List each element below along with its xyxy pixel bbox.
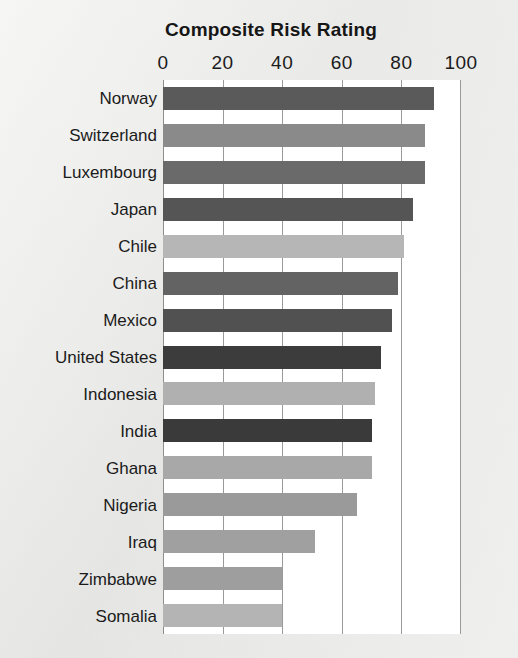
bar-row[interactable] bbox=[163, 604, 461, 627]
bar[interactable] bbox=[163, 419, 372, 442]
bar-row[interactable] bbox=[163, 493, 461, 516]
bar-row[interactable] bbox=[163, 235, 461, 258]
x-tick-label: 40 bbox=[271, 52, 293, 74]
bar[interactable] bbox=[163, 456, 372, 479]
category-label: Switzerland bbox=[69, 127, 157, 144]
bar[interactable] bbox=[163, 567, 282, 590]
composite-risk-rating-chart: Composite Risk Rating 020406080100 Norwa… bbox=[0, 0, 518, 658]
category-label: China bbox=[113, 275, 157, 292]
bar[interactable] bbox=[163, 235, 404, 258]
bar-row[interactable] bbox=[163, 382, 461, 405]
bar-row[interactable] bbox=[163, 456, 461, 479]
category-label: Norway bbox=[99, 90, 157, 107]
bar-row[interactable] bbox=[163, 198, 461, 221]
chart-title: Composite Risk Rating bbox=[0, 19, 518, 41]
x-tick-label: 20 bbox=[212, 52, 234, 74]
bar[interactable] bbox=[163, 272, 398, 295]
x-tick-label: 100 bbox=[444, 52, 477, 74]
bar-row[interactable] bbox=[163, 161, 461, 184]
category-label: Luxembourg bbox=[62, 164, 157, 181]
bar[interactable] bbox=[163, 346, 381, 369]
bar-row[interactable] bbox=[163, 124, 461, 147]
bar-row[interactable] bbox=[163, 309, 461, 332]
category-label: Iraq bbox=[128, 534, 157, 551]
bar[interactable] bbox=[163, 604, 282, 627]
bar[interactable] bbox=[163, 530, 315, 553]
y-axis-category-labels: NorwaySwitzerlandLuxembourgJapanChileChi… bbox=[0, 80, 157, 634]
x-tick-label: 80 bbox=[390, 52, 412, 74]
bar-row[interactable] bbox=[163, 530, 461, 553]
bar[interactable] bbox=[163, 493, 357, 516]
x-tick-label: 0 bbox=[157, 52, 168, 74]
category-label: Chile bbox=[118, 238, 157, 255]
plot-area bbox=[163, 80, 461, 634]
bar-row[interactable] bbox=[163, 346, 461, 369]
category-label: Mexico bbox=[103, 312, 157, 329]
bar[interactable] bbox=[163, 198, 413, 221]
category-label: Somalia bbox=[96, 608, 157, 625]
bar[interactable] bbox=[163, 309, 392, 332]
bar-series bbox=[163, 80, 461, 634]
bar-row[interactable] bbox=[163, 272, 461, 295]
bar-row[interactable] bbox=[163, 567, 461, 590]
category-label: Zimbabwe bbox=[79, 571, 157, 588]
category-label: India bbox=[120, 423, 157, 440]
category-label: Ghana bbox=[106, 460, 157, 477]
bar-row[interactable] bbox=[163, 419, 461, 442]
bar[interactable] bbox=[163, 124, 425, 147]
category-label: Nigeria bbox=[103, 497, 157, 514]
bar-row[interactable] bbox=[163, 87, 461, 110]
bar[interactable] bbox=[163, 382, 375, 405]
category-label: United States bbox=[55, 349, 157, 366]
bar[interactable] bbox=[163, 161, 425, 184]
category-label: Indonesia bbox=[83, 386, 157, 403]
category-label: Japan bbox=[111, 201, 157, 218]
x-tick-label: 60 bbox=[331, 52, 353, 74]
bar[interactable] bbox=[163, 87, 434, 110]
